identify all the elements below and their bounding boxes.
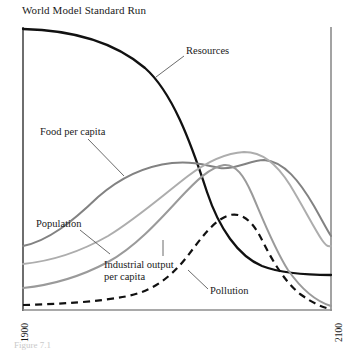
series-line-resources (23, 29, 331, 275)
figure-caption: Figure 7.1 (14, 340, 51, 350)
series-label-resources: Resources (186, 45, 229, 57)
series-label-industrial-output-line1: Industrial output (104, 259, 174, 271)
series-label-pollution: Pollution (210, 285, 249, 297)
leader-line-population (80, 230, 110, 254)
series-label-industrial-output-line2: per capita (104, 271, 174, 283)
x-axis-tick-label-end: 2100 (334, 323, 344, 342)
series-line-industrial-output-per-capita (23, 165, 331, 306)
leader-line-resources (156, 56, 184, 77)
series-label-industrial-output: Industrial output per capita (104, 259, 174, 283)
series-line-food-per-capita (23, 160, 331, 246)
series-label-food-per-capita: Food per capita (40, 126, 105, 138)
leader-line-pollution (188, 270, 208, 289)
leader-line-food-per-capita (88, 139, 124, 176)
series-label-population: Population (36, 218, 82, 230)
